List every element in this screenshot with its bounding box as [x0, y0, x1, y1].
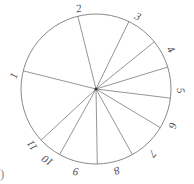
pie-slice-divider [96, 42, 154, 89]
pie-slice-divider [78, 16, 96, 89]
pie-slice-divider [96, 67, 168, 89]
pie-slice-divider [60, 89, 96, 155]
pie-center-dot [94, 87, 97, 90]
corner-paren-mark: ) [0, 166, 8, 182]
pie-slice-divider [23, 71, 96, 89]
pie-slice-divider [96, 89, 97, 164]
pie-slice-divider [96, 89, 160, 128]
pie-slice-divider [96, 89, 132, 155]
pie-slices-group [21, 14, 171, 164]
pie-slice-divider [96, 22, 129, 89]
pie-slice-divider [41, 89, 96, 140]
pie-slice-divider [96, 89, 170, 98]
slice-label-5: 5 [175, 87, 187, 94]
pie-chart-svg [0, 0, 194, 184]
figure-canvas: 1234567891011 ) [0, 0, 194, 184]
